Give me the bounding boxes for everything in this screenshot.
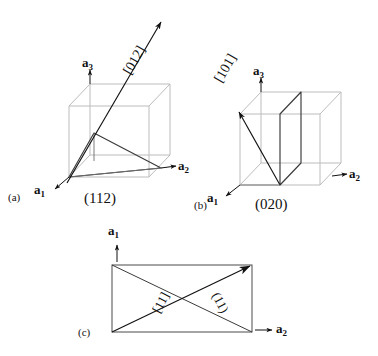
panel-c-axis-a2-name: a bbox=[276, 321, 283, 336]
panel-b-plane-020 bbox=[280, 92, 301, 185]
panel-b-axis-a1-name: a bbox=[207, 190, 214, 205]
panel-b-tag: (b) bbox=[194, 200, 207, 211]
panel-c-axis-a2-label: a2 bbox=[276, 322, 287, 335]
panel-a-axis-a1-arrow bbox=[55, 177, 69, 189]
panel-a-group bbox=[55, 22, 176, 189]
panel-b-axis-a1-label: a1 bbox=[207, 191, 218, 204]
panel-b-unit-cell bbox=[240, 92, 341, 185]
panel-a-axis-a3-label: a3 bbox=[82, 56, 93, 69]
panel-a-axis-a1-name: a bbox=[34, 182, 41, 197]
panel-b-axis-a3-label: a3 bbox=[253, 64, 264, 77]
panel-b-plane-label: (020) bbox=[255, 197, 288, 212]
panel-b-group bbox=[226, 78, 347, 196]
panel-b-axis-a2-sub: 2 bbox=[356, 173, 361, 183]
panel-a-axis-a2-sub: 2 bbox=[185, 165, 190, 175]
panel-b-axis-a3-sub: 3 bbox=[260, 70, 265, 80]
panel-b-direction-arrow-101 bbox=[239, 112, 280, 185]
panel-c-group bbox=[112, 245, 272, 332]
panel-b-axis-a1-arrow bbox=[226, 185, 240, 196]
panel-c-tag: (c) bbox=[78, 327, 90, 338]
panel-a-axis-a1-sub: 1 bbox=[41, 189, 46, 199]
panel-c-axis-a1-name: a bbox=[108, 223, 115, 238]
panel-b-axis-a2-arrow bbox=[332, 174, 347, 176]
figure-root: (a) a3 a2 a1 (112) [012] (b) a3 a2 a1 (0… bbox=[0, 0, 378, 356]
panel-a-direction-arrow-012 bbox=[67, 22, 161, 183]
panel-c-axis-a1-label: a1 bbox=[108, 224, 119, 237]
figure-vector-layer bbox=[0, 0, 378, 356]
panel-a-tag: (a) bbox=[8, 192, 20, 203]
panel-a-axis-a2-arrow bbox=[161, 166, 176, 168]
panel-a-axis-a2-name: a bbox=[178, 158, 185, 173]
panel-b-axis-a1-sub: 1 bbox=[214, 197, 219, 207]
panel-a-axis-a3-sub: 3 bbox=[89, 62, 94, 72]
panel-c-axis-a1-sub: 1 bbox=[115, 230, 120, 240]
panel-c-axis-a2-sub: 2 bbox=[283, 328, 288, 338]
panel-c-direction-arrow-11 bbox=[112, 266, 250, 332]
panel-a-axis-a2-label: a2 bbox=[178, 159, 189, 172]
panel-a-axis-a1-label: a1 bbox=[34, 183, 45, 196]
panel-b-axis-a2-label: a2 bbox=[349, 167, 360, 180]
panel-b-axis-a3-name: a bbox=[253, 63, 260, 78]
panel-a-axis-a3-name: a bbox=[82, 55, 89, 70]
panel-a-unit-cell bbox=[69, 84, 170, 177]
panel-a-plane-label: (112) bbox=[84, 191, 116, 206]
panel-b-axis-a2-name: a bbox=[349, 166, 356, 181]
